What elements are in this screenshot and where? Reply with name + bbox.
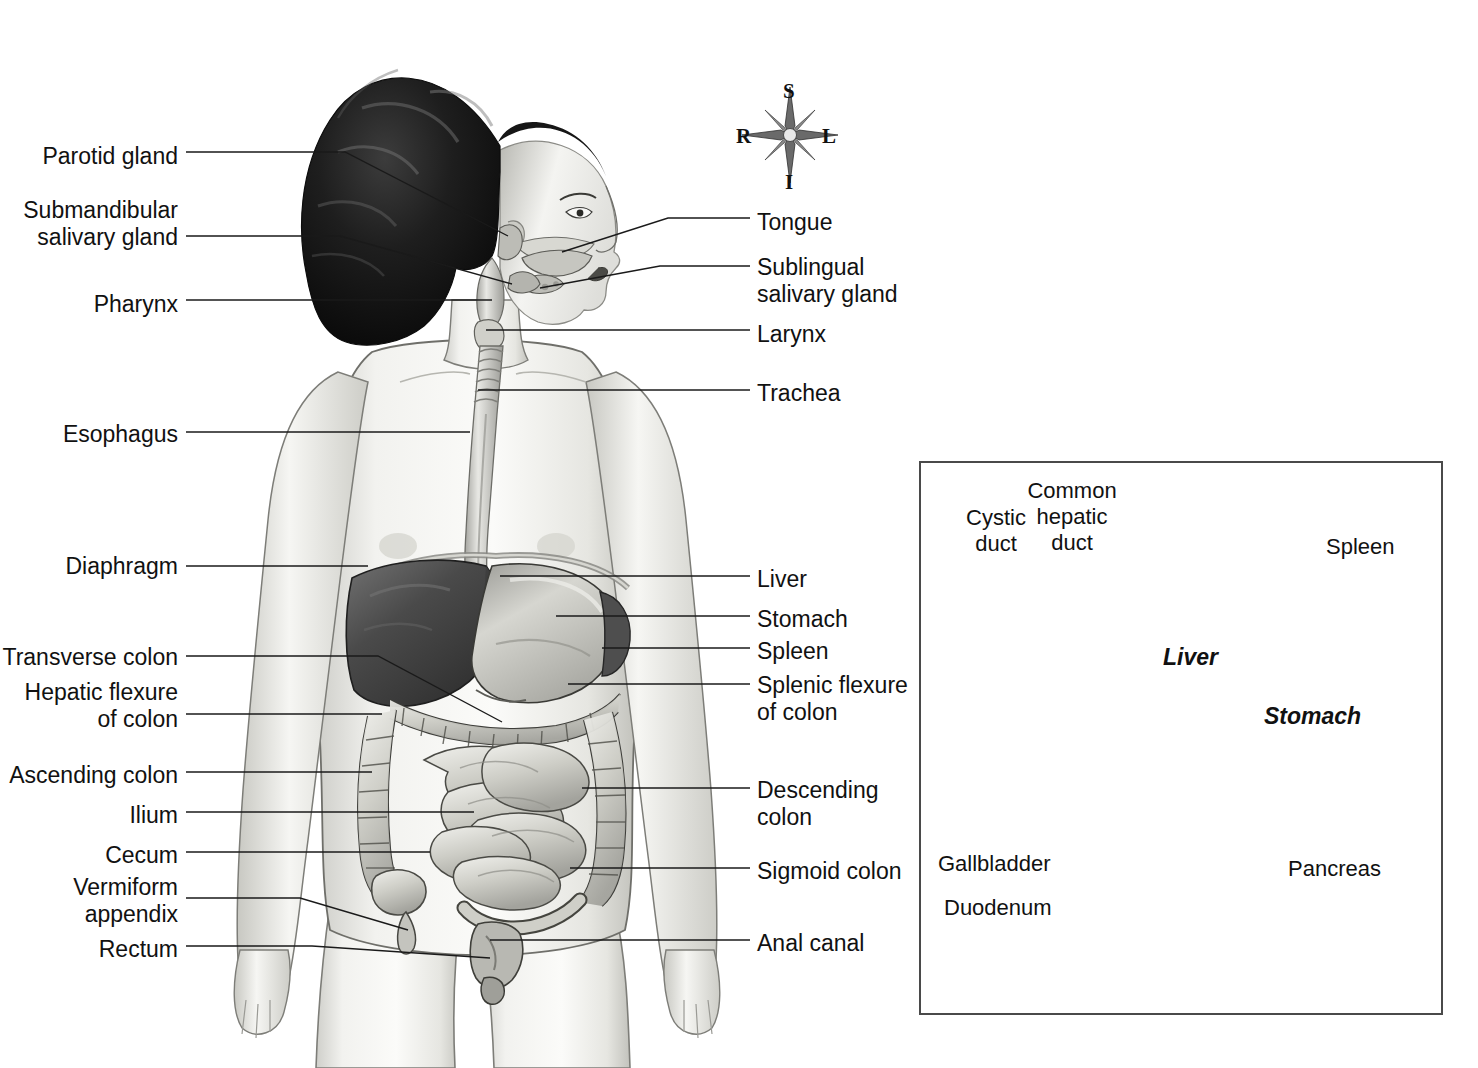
label-transverse-colon: Transverse colon: [0, 644, 178, 671]
label-ascending-colon: Ascending colon: [0, 762, 178, 789]
label-pharynx: Pharynx: [0, 291, 178, 318]
label-esophagus: Esophagus: [0, 421, 178, 448]
label-splenic-flexure-of-colon: Splenic flexure of colon: [757, 672, 908, 726]
label-diaphragm: Diaphragm: [0, 553, 178, 580]
label-liver: Liver: [757, 566, 807, 593]
label-duodenum: Duodenum: [944, 895, 1052, 921]
label-spleen-inset: Spleen: [1326, 534, 1395, 560]
label-anal-canal: Anal canal: [757, 930, 864, 957]
label-descending-colon: Descending colon: [757, 777, 878, 831]
label-vermiform-appendix: Vermiform appendix: [0, 874, 178, 928]
label-sublingual-salivary-gland: Sublingual salivary gland: [757, 254, 898, 308]
label-cecum: Cecum: [0, 842, 178, 869]
label-submandibular-salivary-gland: Submandibular salivary gland: [0, 197, 178, 251]
digestive-system-figure: S I R L Parotid gland Submandibular sali…: [0, 0, 1478, 1068]
label-parotid-gland: Parotid gland: [0, 143, 178, 170]
label-sigmoid-colon: Sigmoid colon: [757, 858, 901, 885]
label-tongue: Tongue: [757, 209, 832, 236]
label-gallbladder: Gallbladder: [938, 851, 1051, 877]
label-ilium: Ilium: [0, 802, 178, 829]
compass-label-left: L: [822, 124, 836, 149]
label-trachea: Trachea: [757, 380, 841, 407]
label-pancreas: Pancreas: [1288, 856, 1381, 882]
label-larynx: Larynx: [757, 321, 826, 348]
compass-label-inferior: I: [785, 170, 793, 195]
label-hepatic-flexure-of-colon: Hepatic flexure of colon: [0, 679, 178, 733]
compass-label-superior: S: [783, 79, 795, 104]
label-rectum: Rectum: [0, 936, 178, 963]
organ-label-stomach: Stomach: [1264, 703, 1361, 730]
label-common-hepatic-duct: Common hepatic duct: [1008, 478, 1136, 556]
organ-label-liver: Liver: [1163, 644, 1218, 671]
label-stomach: Stomach: [757, 606, 848, 633]
compass-label-right: R: [736, 124, 751, 149]
label-spleen: Spleen: [757, 638, 829, 665]
